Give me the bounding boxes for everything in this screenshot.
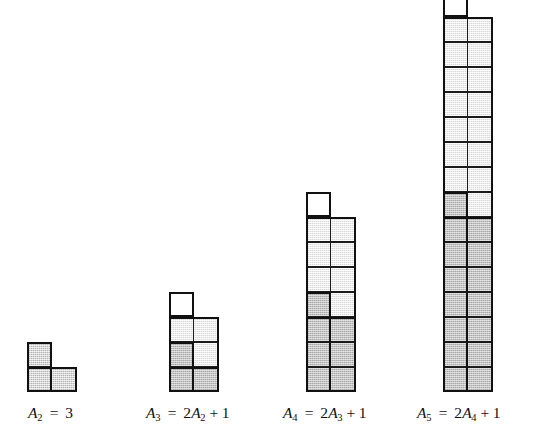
unit-square (193, 342, 218, 367)
square-row (443, 0, 493, 17)
caption-expression: 3 (65, 404, 73, 421)
unit-square (443, 242, 468, 267)
unit-square (443, 167, 468, 192)
unit-square (467, 217, 492, 242)
unit-square (169, 317, 194, 342)
caption-operator: = (161, 404, 183, 421)
caption-expression: 2A2 + 1 (183, 404, 230, 421)
caption-expression: 2A4 + 1 (454, 404, 501, 421)
square-row (169, 317, 219, 342)
square-row (169, 292, 219, 317)
unit-square (443, 217, 468, 242)
unit-square (467, 142, 492, 167)
a2-square-stack (27, 342, 77, 392)
unit-square (51, 342, 76, 367)
unit-square (443, 367, 468, 392)
square-row (443, 367, 493, 392)
square-row (443, 42, 493, 67)
unit-square (467, 192, 492, 217)
a3-caption: A3 = 2A2 + 1 (146, 404, 230, 422)
unit-square (169, 367, 194, 392)
square-row (443, 317, 493, 342)
a4-caption: A4 = 2A3 + 1 (283, 404, 367, 422)
unit-square (330, 342, 355, 367)
unit-square (306, 267, 331, 292)
recurrence-figure: A2 = 3A3 = 2A2 + 1A4 = 2A3 + 1A5 = 2A4 +… (0, 0, 539, 444)
unit-square (27, 342, 52, 367)
unit-square (467, 67, 492, 92)
unit-square (306, 242, 331, 267)
unit-square (330, 217, 355, 242)
square-row (443, 92, 493, 117)
unit-square (330, 292, 355, 317)
a5-square-stack (443, 0, 493, 392)
unit-square (306, 342, 331, 367)
unit-square (467, 342, 492, 367)
unit-square (467, 92, 492, 117)
unit-square (467, 167, 492, 192)
square-row (27, 342, 77, 367)
square-row (443, 242, 493, 267)
unit-square (330, 242, 355, 267)
group-a4 (306, 192, 356, 392)
unit-square (306, 217, 331, 242)
square-row (443, 192, 493, 217)
unit-square (193, 292, 218, 317)
square-row (306, 242, 356, 267)
unit-square (330, 267, 355, 292)
caption-index: 5 (426, 412, 431, 423)
a3-square-stack (169, 292, 219, 392)
unit-square (443, 67, 468, 92)
group-a5 (443, 0, 493, 392)
square-row (443, 267, 493, 292)
unit-square (51, 367, 76, 392)
caption-operator: = (432, 404, 454, 421)
a4-square-stack (306, 192, 356, 392)
caption-index: 4 (292, 412, 297, 423)
unit-square (330, 317, 355, 342)
unit-square (193, 317, 218, 342)
square-row (306, 217, 356, 242)
unit-square (467, 0, 492, 17)
unit-square (467, 317, 492, 342)
square-row (306, 367, 356, 392)
square-row (443, 142, 493, 167)
square-row (443, 292, 493, 317)
square-row (443, 167, 493, 192)
unit-square (443, 292, 468, 317)
unit-square (306, 367, 331, 392)
square-row (169, 367, 219, 392)
square-row (443, 342, 493, 367)
unit-square (467, 42, 492, 67)
unit-square (443, 17, 468, 42)
square-row (169, 342, 219, 367)
a5-caption: A5 = 2A4 + 1 (417, 404, 501, 422)
unit-square (443, 0, 468, 17)
square-row (443, 217, 493, 242)
square-row (306, 342, 356, 367)
square-row (443, 17, 493, 42)
caption-index: 2 (37, 412, 42, 423)
square-row (27, 367, 77, 392)
unit-square (306, 317, 331, 342)
unit-square (193, 367, 218, 392)
unit-square (306, 292, 331, 317)
unit-square (443, 342, 468, 367)
unit-square (467, 267, 492, 292)
unit-square (467, 117, 492, 142)
square-row (443, 67, 493, 92)
square-row (306, 267, 356, 292)
caption-expression: 2A3 + 1 (320, 404, 367, 421)
square-row (306, 192, 356, 217)
unit-square (467, 367, 492, 392)
group-a2 (27, 342, 77, 392)
unit-square (330, 192, 355, 217)
caption-index: 3 (155, 412, 160, 423)
group-a3 (169, 292, 219, 392)
square-row (306, 317, 356, 342)
unit-square (330, 367, 355, 392)
unit-square (306, 192, 331, 217)
square-row (443, 117, 493, 142)
caption-operator: = (298, 404, 320, 421)
a2-caption: A2 = 3 (28, 404, 73, 422)
